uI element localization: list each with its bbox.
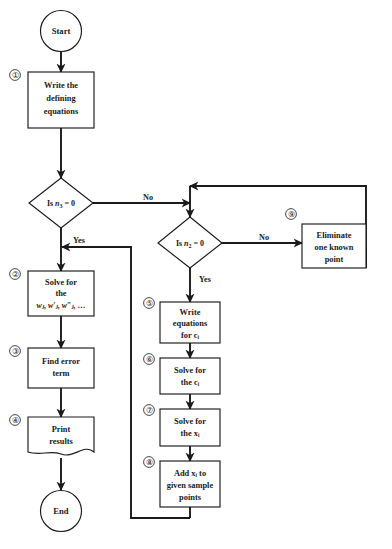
process-step7[interactable] bbox=[160, 409, 220, 446]
step-number-8: ⑧ bbox=[146, 458, 153, 467]
step9-line2: one known bbox=[315, 243, 354, 252]
process-step6[interactable] bbox=[160, 358, 220, 394]
step4-line2: results bbox=[49, 437, 73, 446]
step7-line1: Solve for bbox=[174, 417, 206, 426]
step-number-3: ③ bbox=[12, 347, 19, 356]
step-number-5: ⑤ bbox=[146, 299, 153, 308]
step-number-4: ④ bbox=[12, 416, 19, 425]
step2-line2: the bbox=[55, 289, 66, 298]
step-number-6: ⑥ bbox=[146, 355, 153, 364]
decision2-no-label: No bbox=[259, 233, 269, 242]
step7-line2: the xᵢ bbox=[181, 429, 200, 438]
step6-line1: Solve for bbox=[174, 366, 206, 375]
step-number-2: ② bbox=[12, 270, 19, 279]
step6-line2: the cᵢ bbox=[181, 378, 200, 387]
step-number-9: ⑨ bbox=[288, 210, 295, 219]
step8-line3: points bbox=[179, 493, 202, 502]
document-step4-print-results[interactable] bbox=[28, 417, 94, 455]
step5-line3: for cᵢ bbox=[181, 331, 199, 340]
step3-line2: term bbox=[52, 369, 69, 378]
step5-line2: equations bbox=[173, 319, 208, 328]
step1-line3: equations bbox=[44, 107, 79, 116]
step2-line1: Solve for bbox=[45, 278, 77, 287]
step1-line2: defining bbox=[46, 94, 76, 103]
step5-line1: Write bbox=[180, 308, 201, 317]
process-step3[interactable] bbox=[28, 348, 94, 388]
step4-line1: Print bbox=[52, 425, 71, 434]
step1-line1: Write the bbox=[44, 81, 78, 90]
decision2-yes-label: Yes bbox=[199, 275, 211, 284]
step9-line3: point bbox=[325, 255, 344, 264]
step3-line1: Find error bbox=[42, 357, 80, 366]
step2-line3: wⱼ, w′ⱼ, w″ⱼ, … bbox=[37, 301, 86, 310]
flowchart-svg: Start Write the defining equations ① Is … bbox=[0, 0, 392, 549]
flowchart-canvas: Start Write the defining equations ① Is … bbox=[0, 0, 392, 549]
step-number-1: ① bbox=[12, 71, 19, 80]
terminator-end-label: End bbox=[53, 506, 69, 516]
step8-line1: Add xᵢ to bbox=[174, 469, 206, 478]
step-number-7: ⑦ bbox=[146, 406, 153, 415]
step9-line1: Eliminate bbox=[317, 231, 352, 240]
decision1-no-label: No bbox=[143, 193, 153, 202]
decision1-yes-label: Yes bbox=[73, 236, 85, 245]
step8-line2: given sample bbox=[167, 481, 214, 490]
terminator-start-label: Start bbox=[52, 26, 71, 36]
